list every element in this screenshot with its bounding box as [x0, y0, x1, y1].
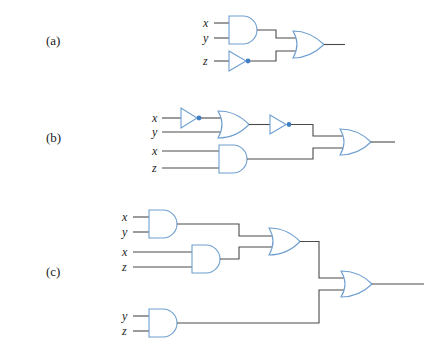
inversion-bubble: [287, 122, 292, 127]
or-gate: [293, 31, 324, 58]
or-gate: [218, 111, 249, 138]
input-label-y: y: [151, 125, 158, 139]
or-gate: [269, 228, 300, 255]
part-label-a: (a): [46, 33, 60, 48]
circuit-b: (b) x y x z: [46, 108, 395, 175]
input-label-y: y: [121, 225, 128, 239]
input-label-z: z: [151, 161, 157, 175]
or-gate: [341, 271, 372, 297]
not-gate: [181, 108, 197, 128]
and-gate: [149, 309, 177, 337]
and-gate: [219, 145, 247, 173]
logic-circuits-figure: (a) x y z (b) x y x z: [0, 0, 443, 357]
input-label-x: x: [151, 111, 158, 125]
input-label-z: z: [202, 54, 208, 68]
input-label-x: x: [202, 16, 209, 30]
and-gate: [229, 16, 257, 44]
and-gate: [149, 210, 177, 238]
input-label-x: x: [151, 144, 158, 158]
input-label-z: z: [121, 324, 127, 338]
input-label-y: y: [121, 309, 128, 323]
input-label-x: x: [121, 245, 128, 259]
and-gate: [192, 245, 220, 273]
input-label-z: z: [121, 260, 127, 274]
part-label-c: (c): [46, 264, 60, 279]
inversion-bubble: [246, 59, 251, 64]
inversion-bubble: [197, 116, 202, 121]
or-gate: [340, 129, 371, 155]
not-gate: [229, 51, 246, 71]
input-label-x: x: [121, 210, 128, 224]
input-label-y: y: [202, 31, 209, 45]
circuit-c: (c) x y x z y z: [46, 210, 424, 338]
not-gate: [270, 115, 286, 134]
part-label-b: (b): [46, 130, 61, 145]
circuit-a: (a) x y z: [46, 16, 345, 71]
